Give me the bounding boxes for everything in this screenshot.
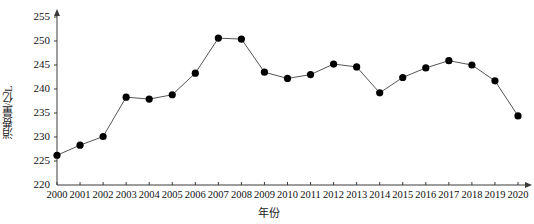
data-point-marker: [307, 71, 314, 78]
data-point-marker: [330, 60, 337, 67]
data-point-marker: [146, 95, 153, 102]
x-axis-arrow: [525, 182, 532, 188]
data-point-marker: [76, 142, 83, 149]
data-point-marker: [238, 35, 245, 42]
data-point-marker: [445, 57, 452, 64]
data-point-marker: [284, 75, 291, 82]
data-point-marker: [261, 69, 268, 76]
data-point-marker: [169, 91, 176, 98]
chart-vector-layer: [0, 0, 534, 224]
data-point-marker: [100, 133, 107, 140]
data-point-marker: [399, 74, 406, 81]
data-point-marker: [353, 63, 360, 70]
data-point-marker: [514, 112, 521, 119]
data-point-marker: [491, 77, 498, 84]
line-chart: 消费量/亿L 年份 220225230235240245250255200020…: [0, 0, 534, 224]
data-point-marker: [215, 35, 222, 42]
data-point-marker: [422, 64, 429, 71]
data-point-marker: [53, 152, 60, 159]
y-axis-arrow: [54, 9, 60, 16]
data-point-marker: [376, 89, 383, 96]
data-point-marker: [192, 70, 199, 77]
data-point-marker: [123, 94, 130, 101]
data-point-marker: [468, 61, 475, 68]
